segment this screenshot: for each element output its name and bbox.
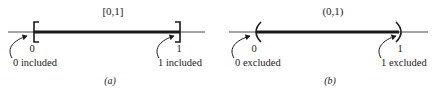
endpoint-label-0: 0 [29, 43, 34, 54]
note-right-included: 1 included [158, 57, 203, 68]
note-left-included: 0 included [13, 57, 58, 68]
note-left-excluded: 0 excluded [235, 57, 282, 68]
curved-arrow-icon [232, 36, 250, 58]
interval-label-open: (0,1) [322, 5, 343, 18]
caption-a: (a) [104, 75, 116, 87]
caption-b: (b) [324, 75, 336, 87]
curved-arrow-icon [379, 36, 396, 58]
interval-label-closed: [0,1] [102, 5, 123, 17]
curved-arrow-icon [10, 36, 27, 58]
panel-a-closed-interval: [0,1] 0 1 0 included 1 included (a) [8, 5, 205, 87]
endpoint-label-1: 1 [176, 43, 181, 54]
note-right-excluded: 1 excluded [381, 57, 428, 68]
panel-b-open-interval: (0,1) 0 1 0 excluded 1 excluded (b) [229, 5, 428, 87]
endpoint-label-1: 1 [397, 43, 402, 54]
curved-arrow-icon [157, 36, 174, 58]
endpoint-label-0: 0 [251, 43, 256, 54]
interval-diagram: [0,1] 0 1 0 included 1 included (a) (0,1… [0, 0, 434, 91]
